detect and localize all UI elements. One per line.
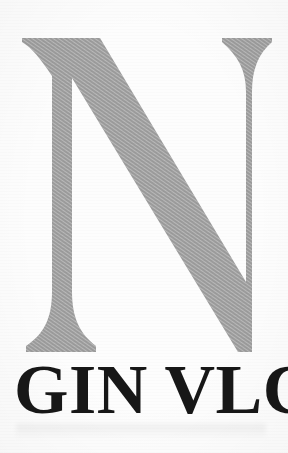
logo-image: GIN VLC Logo: large gray serif capital l…: [0, 0, 288, 453]
image-alt-text: Logo: large gray serif capital letter N …: [0, 0, 1, 1]
letter-n-monogram: [0, 30, 288, 360]
wordmark: GIN VLC: [14, 355, 288, 435]
wordmark-text: GIN VLC: [14, 355, 288, 425]
